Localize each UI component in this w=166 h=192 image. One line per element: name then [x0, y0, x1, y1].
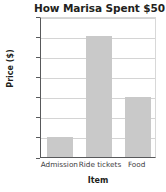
bar-chart-figure: How Marisa Spent $50 05101520253035 Pric… — [0, 0, 166, 192]
x-tick-label: Ride tickets — [79, 160, 118, 169]
x-axis: AdmissionRide ticketsFood — [40, 160, 156, 172]
chart-title: How Marisa Spent $50 — [34, 2, 162, 14]
bar-series — [41, 18, 155, 157]
x-tick-label: Food — [117, 160, 156, 169]
bar — [47, 137, 73, 157]
y-axis-title: Price ($) — [6, 34, 15, 104]
bar — [125, 97, 151, 157]
x-axis-title: Item — [40, 176, 156, 185]
plot-area — [40, 17, 156, 158]
bar — [86, 36, 112, 157]
x-tick-label: Admission — [40, 160, 79, 169]
